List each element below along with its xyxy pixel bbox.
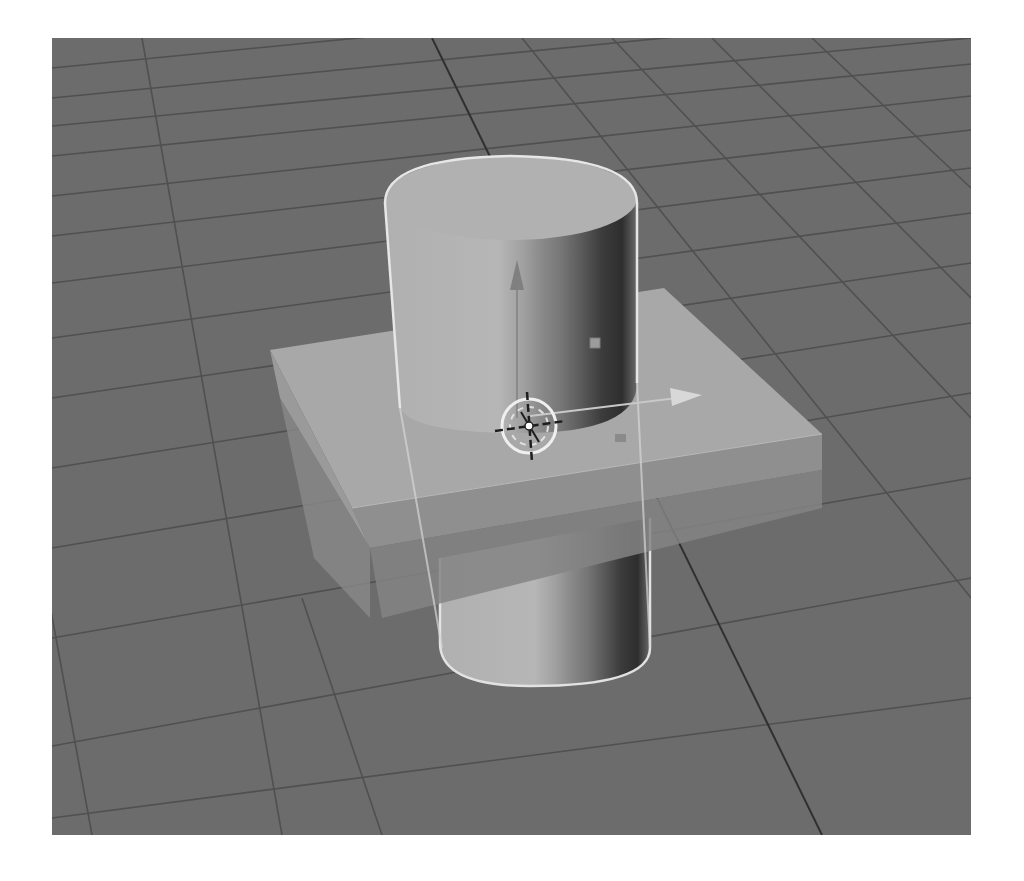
z-plane-handle[interactable] [590,338,600,348]
3d-viewport[interactable] [52,38,971,835]
x-plane-handle[interactable] [615,434,626,442]
viewport-canvas[interactable] [52,38,971,835]
